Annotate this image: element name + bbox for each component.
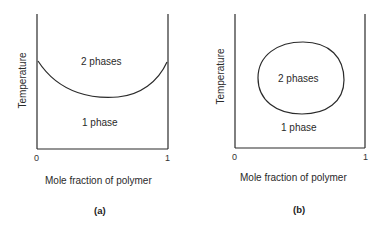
panel-b-x-tick-0: 0	[232, 152, 237, 162]
panel-b-region-outer-label: 1 phase	[281, 122, 317, 133]
panel-a-x-axis-label: Mole fraction of polymer	[45, 175, 152, 186]
panel-b-x-tick-1: 1	[363, 152, 368, 162]
panel-b-x-axis-label: Mole fraction of polymer	[240, 172, 347, 183]
panel-b-y-axis-label: Temperature	[215, 47, 226, 107]
panel-a-x-tick-0: 0	[34, 153, 39, 163]
panel-a-y-axis-label: Temperature	[17, 51, 28, 111]
panel-a-region-upper-label: 2 phases	[81, 56, 122, 67]
phase-diagram-figure	[0, 0, 383, 225]
panel-a-region-lower-label: 1 phase	[82, 117, 118, 128]
panel-b-region-inner-label: 2 phases	[278, 73, 319, 84]
panel-a-x-tick-1: 1	[165, 153, 170, 163]
panel-b-caption: (b)	[293, 204, 305, 215]
panel-a-caption: (a)	[94, 205, 106, 216]
